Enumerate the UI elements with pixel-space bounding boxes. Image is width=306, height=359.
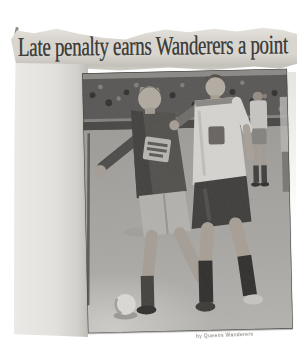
headline-text: Late penalty earns Wanderers a point (18, 29, 288, 63)
photo-credit-caption: by Queens Wanderers (196, 329, 292, 339)
scanned-newspaper-clipping: Late penalty earns Wanderers a point (0, 0, 306, 359)
match-photo (82, 69, 293, 334)
clipping-left-paper-margin (14, 63, 88, 337)
newsprint-grain (82, 69, 293, 334)
